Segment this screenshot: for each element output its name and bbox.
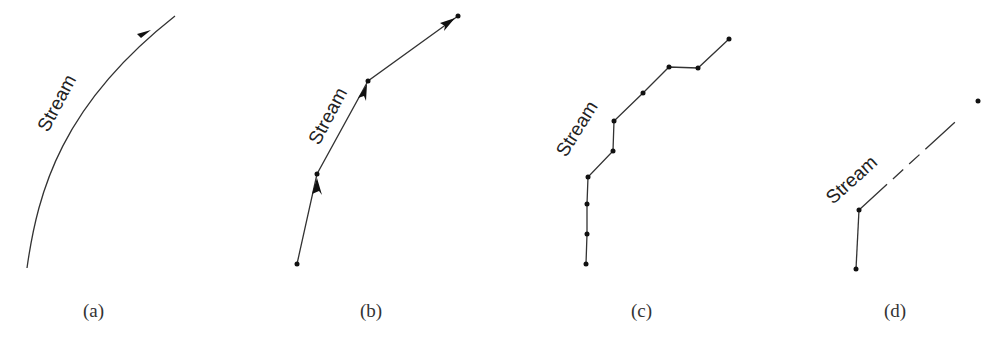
vertex — [366, 79, 371, 84]
stream-segment — [856, 210, 859, 269]
panel-caption: (b) — [360, 300, 382, 322]
vertex — [585, 202, 590, 207]
stream-label: Stream — [304, 84, 351, 148]
vertex — [854, 267, 859, 272]
panel-d: Stream (d) — [822, 99, 981, 323]
vertex — [667, 65, 672, 70]
panel-caption: (c) — [631, 300, 652, 322]
arrowhead-icon — [440, 18, 455, 31]
vertex — [696, 66, 701, 71]
vertex — [585, 232, 590, 237]
vertex — [586, 175, 591, 180]
stream-label: Stream — [33, 71, 80, 135]
arrowhead-icon — [137, 30, 151, 38]
panel-b: Stream (b) — [295, 14, 461, 323]
stream-polyline — [586, 39, 729, 264]
vertex — [315, 172, 320, 177]
stream-curve — [27, 16, 175, 268]
arrowhead-icon — [312, 178, 322, 195]
vertex — [611, 149, 616, 154]
stream-dashed-segment — [859, 101, 978, 210]
vertex — [584, 262, 589, 267]
panel-a: Stream (a) — [27, 16, 175, 322]
vertex — [295, 262, 300, 267]
vertex — [727, 37, 732, 42]
stream-figure: Stream (a) Stream (b) Stream (c) — [0, 0, 1003, 341]
stream-label: Stream — [552, 97, 602, 160]
panel-c: Stream (c) — [552, 37, 732, 323]
stream-label: Stream — [822, 151, 882, 208]
arrowhead-icon — [358, 84, 367, 101]
vertex — [857, 208, 862, 213]
vertex — [641, 91, 646, 96]
vertex — [456, 14, 461, 19]
vertex — [976, 99, 981, 104]
panel-caption: (a) — [83, 300, 104, 322]
vertex — [612, 119, 617, 124]
panel-caption: (d) — [884, 300, 906, 322]
